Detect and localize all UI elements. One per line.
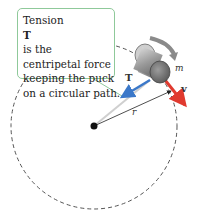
callout-line-4: on a circular path.	[23, 86, 109, 101]
tension-label: T	[125, 72, 132, 83]
callout-line-2: centripetal force	[23, 57, 109, 72]
mass-label: m	[175, 63, 184, 73]
tension-vector-symbol: T	[23, 28, 109, 43]
callout-line-3: keeping the puck	[23, 71, 109, 86]
tension-callout: Tension T is the centripetal force keepi…	[17, 8, 115, 79]
puck	[133, 44, 170, 83]
velocity-label: v	[181, 83, 187, 94]
radius-label: r	[132, 107, 136, 117]
callout-line-1: Tension T is the	[23, 13, 109, 57]
center-pivot	[91, 123, 98, 130]
